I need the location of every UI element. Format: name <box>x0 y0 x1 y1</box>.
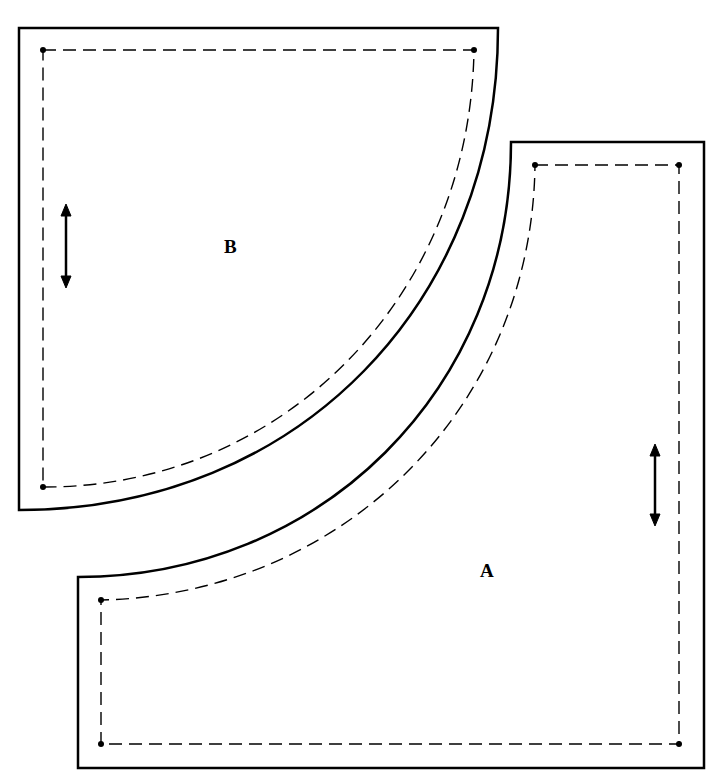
piece-b-seam-line <box>43 50 474 487</box>
piece-a-grain-arrow <box>650 444 660 526</box>
piece-a-label: A <box>480 560 494 582</box>
piece-b <box>19 28 498 510</box>
piece-b-grain-arrow <box>61 204 71 288</box>
piece-a <box>78 142 704 768</box>
piece-b-cut-line <box>19 28 498 510</box>
piece-a-seam-line <box>101 165 679 744</box>
piece-a-cut-line <box>78 142 704 768</box>
piece-a-corners <box>98 162 682 747</box>
piece-b-label: B <box>224 236 237 258</box>
pattern-diagram <box>0 0 722 782</box>
